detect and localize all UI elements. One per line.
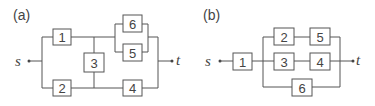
block-b-6: 6 — [292, 79, 312, 96]
svg-text:6: 6 — [298, 81, 305, 96]
svg-text:4: 4 — [316, 55, 323, 70]
sink-label-b: t — [356, 52, 361, 68]
source-label-a: s — [15, 53, 21, 69]
block-a-6: 6 — [123, 15, 142, 32]
svg-text:6: 6 — [129, 17, 136, 32]
panel-label-b: (b) — [203, 7, 220, 23]
svg-text:1: 1 — [239, 55, 246, 70]
svg-text:5: 5 — [129, 46, 136, 61]
block-b-1: 1 — [233, 53, 252, 70]
svg-text:4: 4 — [129, 81, 136, 96]
block-b-5: 5 — [310, 28, 330, 45]
svg-text:1: 1 — [58, 30, 65, 45]
svg-text:3: 3 — [90, 56, 97, 71]
reliability-block-diagrams: (a) s t 1 2 3 4 5 6 — [0, 0, 375, 106]
svg-text:2: 2 — [280, 30, 287, 45]
sink-node-a — [171, 60, 174, 63]
svg-text:3: 3 — [280, 55, 287, 70]
svg-text:2: 2 — [58, 81, 65, 96]
block-b-4: 4 — [310, 53, 330, 70]
svg-text:5: 5 — [316, 30, 323, 45]
panel-label-a: (a) — [13, 7, 30, 23]
block-a-5: 5 — [123, 44, 142, 61]
block-b-3: 3 — [274, 53, 294, 70]
sink-label-a: t — [176, 52, 181, 68]
source-label-b: s — [205, 53, 211, 69]
block-a-1: 1 — [53, 29, 71, 45]
diagram-b: (b) s t 1 2 3 4 5 6 — [203, 7, 361, 96]
sink-node-b — [352, 60, 355, 63]
block-b-2: 2 — [274, 28, 294, 45]
block-a-3: 3 — [84, 53, 104, 72]
diagram-a: (a) s t 1 2 3 4 5 6 — [13, 7, 181, 96]
block-a-4: 4 — [123, 80, 142, 96]
block-a-2: 2 — [53, 80, 71, 96]
